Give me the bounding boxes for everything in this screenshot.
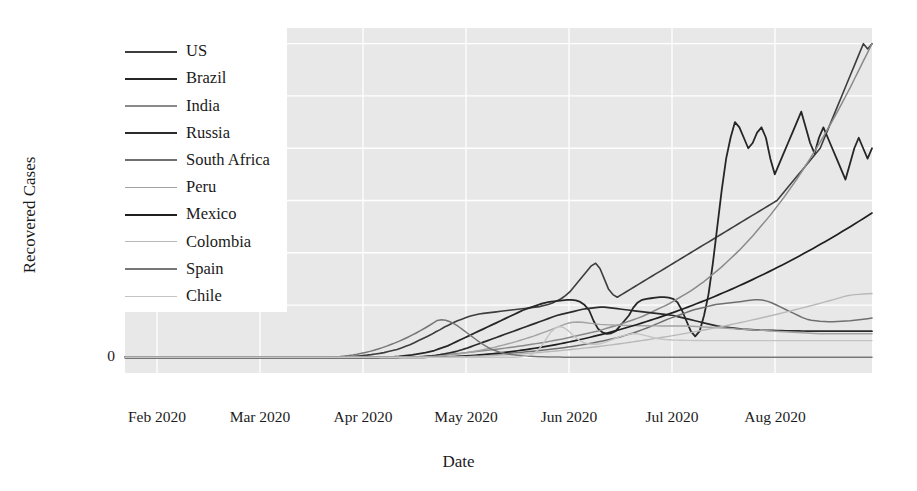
legend-label: India: [186, 98, 220, 115]
legend-item-russia[interactable]: Russia: [125, 120, 230, 147]
legend-line-swatch: [125, 159, 177, 161]
legend-line-swatch: [125, 78, 177, 80]
legend-item-brazil[interactable]: Brazil: [125, 65, 226, 92]
x-tick-label: May 2020: [406, 408, 526, 426]
legend-item-colombia[interactable]: Colombia: [125, 228, 251, 255]
legend-label: Colombia: [186, 234, 251, 251]
legend-label: Peru: [186, 179, 216, 196]
x-axis-label: Date: [0, 452, 917, 472]
legend-item-spain[interactable]: Spain: [125, 256, 224, 283]
chart-legend: USBrazilIndiaRussiaSouth AfricaPeruMexic…: [73, 24, 287, 312]
x-tick-label: Feb 2020: [97, 408, 217, 426]
legend-line-swatch: [125, 214, 177, 216]
legend-item-chile[interactable]: Chile: [125, 283, 222, 310]
legend-line-swatch: [125, 51, 177, 53]
legend-label: South Africa: [186, 152, 270, 169]
legend-line-swatch: [125, 268, 177, 270]
x-tick-label: Jul 2020: [612, 408, 732, 426]
legend-line-swatch: [125, 105, 177, 107]
x-tick-label: Jun 2020: [509, 408, 629, 426]
y-tick-label: 0: [65, 347, 115, 365]
legend-item-south-africa[interactable]: South Africa: [125, 147, 270, 174]
legend-label: Brazil: [186, 70, 226, 87]
x-tick-label: Aug 2020: [715, 408, 835, 426]
legend-item-india[interactable]: India: [125, 92, 220, 119]
legend-item-peru[interactable]: Peru: [125, 174, 216, 201]
legend-line-swatch: [125, 241, 177, 242]
legend-label: Russia: [186, 125, 230, 142]
x-tick-label: Apr 2020: [303, 408, 423, 426]
legend-item-mexico[interactable]: Mexico: [125, 201, 236, 228]
y-axis-label: Recovered Cases: [20, 115, 40, 315]
x-tick-label: Mar 2020: [200, 408, 320, 426]
legend-line-swatch: [125, 187, 177, 188]
legend-label: Spain: [186, 261, 224, 278]
legend-line-swatch: [125, 132, 177, 134]
legend-label: Chile: [186, 288, 222, 305]
legend-label: US: [186, 43, 207, 60]
legend-line-swatch: [125, 296, 177, 297]
legend-label: Mexico: [186, 206, 236, 223]
legend-item-us[interactable]: US: [125, 38, 207, 65]
